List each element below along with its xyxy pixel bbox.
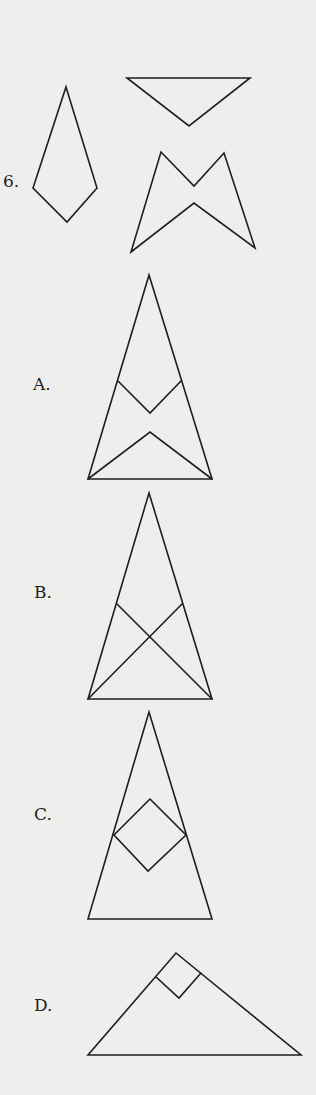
triangle-outline: [88, 275, 212, 479]
triangle-outline: [88, 712, 212, 919]
kite-piece: [33, 87, 97, 222]
option-b-figure[interactable]: [88, 493, 212, 699]
triangle-piece: [127, 78, 250, 126]
option-a-figure[interactable]: [88, 275, 212, 479]
option-c-figure[interactable]: [88, 712, 212, 919]
triangle-outline: [88, 953, 301, 1055]
given-pieces: [33, 78, 255, 252]
puzzle-canvas: 6. A. B. C. D.: [0, 0, 316, 1095]
triangle-outline: [88, 493, 212, 699]
inner-line: [88, 432, 212, 479]
inner-line: [156, 973, 201, 998]
inner-line: [118, 381, 181, 413]
option-d-figure[interactable]: [88, 953, 301, 1055]
inner-line: [114, 799, 186, 871]
bowtie-piece: [131, 152, 255, 252]
figures: [0, 0, 316, 1095]
